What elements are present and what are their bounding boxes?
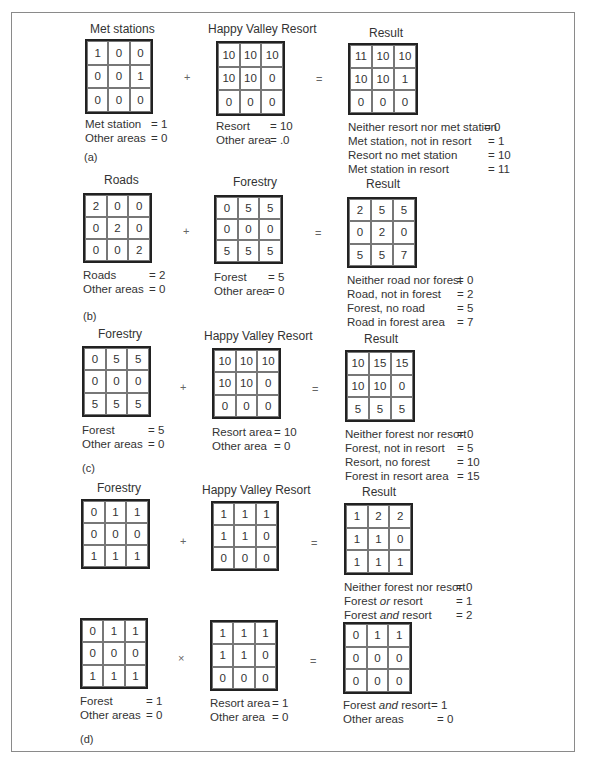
grid-cell: 0 [389, 528, 411, 551]
legend-key: Neither forest nor resort [345, 427, 457, 441]
panel-c-middle-legend: Resort area= 10 Other area= 0 [212, 425, 297, 453]
grid-cell: 0 [367, 669, 389, 692]
panel-b-roads-grid: 2 0 0 0 2 0 0 0 2 [83, 193, 152, 263]
panel-a-met-stations-grid: 1 0 0 0 0 1 0 0 0 [85, 39, 153, 114]
legend-key: Forest, no road [347, 301, 457, 315]
grid-cell: 5 [347, 397, 369, 420]
legend-key-italic: or [380, 595, 390, 607]
legend-key: Forest and resort [344, 608, 456, 622]
grid-cell: 2 [128, 239, 150, 261]
legend-key: Other areas [80, 708, 146, 722]
legend-value: = 0 [272, 710, 288, 724]
legend-key-part: resort [398, 699, 431, 711]
grid-cell: 5 [127, 348, 149, 370]
grid-cell: 10 [218, 67, 240, 91]
grid-cell: 0 [214, 395, 236, 417]
equals-operator: = [311, 537, 317, 549]
panel-d-forestry-grid: 0 1 1 0 0 0 1 1 1 [81, 499, 150, 569]
grid-cell: 1 [213, 525, 234, 547]
legend-key-part: Forest [344, 609, 380, 621]
equals-operator: = [310, 655, 316, 667]
grid-cell: 5 [369, 397, 391, 420]
legend-key-part: resort [390, 595, 423, 607]
panel-a-result-legend: Neither resort nor met station= 0 Met st… [348, 120, 511, 176]
plus-operator: + [183, 225, 189, 237]
grid-cell: 0 [216, 219, 238, 241]
legend-value: = 7 [457, 315, 473, 329]
legend-value: = 1 [456, 594, 472, 608]
legend-key: Other area [210, 710, 272, 724]
panel-c-resort-grid: 10 10 10 10 10 0 0 0 0 [212, 348, 281, 419]
grid-cell: 1 [105, 501, 127, 523]
legend-key: Other areas [83, 282, 149, 296]
grid-cell: 0 [103, 642, 124, 664]
legend-key: Forest or resort [344, 594, 456, 608]
panel-label-a: (a) [84, 151, 97, 163]
legend-key: Other areas [85, 131, 151, 145]
grid-cell: 1 [126, 501, 148, 523]
grid-cell: 1 [103, 620, 124, 642]
grid-cell: 0 [349, 221, 371, 243]
legend-value: = .0 [270, 133, 290, 147]
grid-cell: 0 [125, 642, 146, 664]
grid-cell: 5 [216, 240, 238, 262]
grid-cell: 10 [372, 45, 394, 68]
legend-key: Road in forest area [347, 315, 457, 329]
grid-cell: 15 [369, 352, 391, 375]
grid-cell: 5 [259, 240, 281, 262]
grid-cell: 0 [107, 239, 129, 261]
panel-b-left-legend: Roads= 2 Other areas= 0 [83, 268, 165, 296]
legend-key-italic: and [380, 609, 399, 621]
legend-value: = 0 [437, 712, 453, 726]
legend-value: = 10 [274, 425, 297, 439]
panel-b-result-grid: 2 5 5 0 2 0 5 5 7 [347, 197, 417, 268]
grid-cell: 0 [345, 669, 367, 692]
legend-value: = 0 [457, 273, 473, 287]
legend-key: Neither road nor forest [347, 273, 457, 287]
grid-cell: 1 [125, 620, 146, 642]
grid-cell: 0 [85, 217, 107, 239]
legend-key: Resort [216, 119, 270, 133]
grid-cell: 10 [372, 68, 394, 91]
grid-cell: 0 [391, 375, 413, 398]
legend-value: = 11 [488, 162, 510, 176]
panel-c-result-title: Result [364, 332, 398, 346]
grid-cell: 2 [107, 217, 129, 239]
grid-cell: 10 [261, 43, 283, 67]
grid-cell: 5 [393, 199, 415, 221]
grid-cell: 0 [261, 67, 283, 91]
grid-cell: 10 [347, 375, 369, 398]
legend-key: Met station [85, 117, 151, 131]
grid-cell: 1 [368, 550, 390, 573]
grid-cell: 1 [255, 622, 276, 644]
plus-operator: + [180, 535, 186, 547]
grid-cell: 2 [371, 221, 393, 243]
panel-label-b: (b) [83, 310, 96, 322]
legend-value: = 0 [484, 120, 500, 134]
panel-c-middle-title: Happy Valley Resort [204, 329, 313, 343]
grid-cell: 5 [84, 393, 106, 415]
grid-cell: 0 [394, 90, 416, 113]
panel-c-forestry-grid: 0 5 5 0 0 0 5 5 5 [82, 346, 151, 417]
grid-cell: 1 [234, 525, 255, 547]
legend-key: Roads [83, 268, 149, 282]
grid-cell: 0 [212, 667, 233, 689]
panel-a-middle-title: Happy Valley Resort [208, 22, 317, 36]
legend-key-part: resort [399, 609, 432, 621]
legend-key: Resort, no forest [345, 455, 457, 469]
panel-a-left-legend: Met station= 1 Other areas= 0 [85, 117, 167, 145]
legend-key: Met station, not in resort [348, 134, 480, 148]
panel-d-result-grid: 1 2 2 1 1 0 1 1 1 [344, 503, 413, 575]
panel-d2-result-legend: Forest and resort= 1 Other areas= 0 [343, 698, 453, 726]
legend-key: Other area [216, 133, 270, 147]
grid-cell: 5 [127, 393, 149, 415]
legend-value: = 5 [457, 441, 473, 455]
panel-a-result-grid: 11 10 10 10 10 1 0 0 0 [348, 43, 418, 115]
legend-key: Other areas [82, 437, 148, 451]
grid-cell: 15 [391, 352, 413, 375]
grid-cell: 0 [105, 523, 127, 545]
grid-cell: 2 [389, 505, 411, 528]
legend-key: Forest [214, 270, 268, 284]
grid-cell: 0 [255, 667, 276, 689]
legend-key: Resort area [210, 696, 272, 710]
